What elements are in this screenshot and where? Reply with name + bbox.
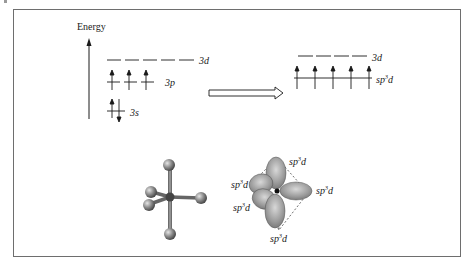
left-3p-label: 3p: [165, 78, 175, 88]
left-3d-label: 3d: [199, 56, 209, 66]
right-sp3d-level: [294, 66, 372, 89]
lobe-label-top: sp3d: [289, 157, 306, 167]
left-3s-label: 3s: [130, 108, 139, 118]
lobe-label-left-lower: sp3d: [233, 203, 250, 213]
lobe-label-left-upper: sp3d: [231, 180, 248, 190]
hybridization-arrow: [209, 87, 283, 99]
left-3p-level: [107, 70, 154, 90]
lobe-label-right: sp3d: [316, 186, 333, 196]
diagram-canvas: [0, 0, 474, 272]
right-sp3d-label: sp3d: [376, 75, 393, 85]
energy-axis-arrow: [87, 38, 92, 119]
ball-and-stick-molecule: [143, 159, 207, 240]
lobe-label-bottom: sp3d: [270, 234, 287, 244]
right-3d-label: 3d: [372, 53, 382, 63]
sp3d-orbital-lobes: [247, 157, 312, 230]
left-3s-level: [107, 99, 125, 122]
energy-label: Energy: [77, 22, 106, 32]
